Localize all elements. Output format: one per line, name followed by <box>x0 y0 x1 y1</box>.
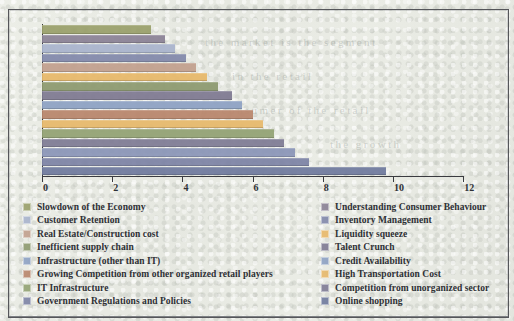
legend-swatch-icon <box>23 270 31 278</box>
bar-series <box>42 25 464 176</box>
bar <box>42 167 386 176</box>
bar <box>42 91 232 100</box>
legend-item: IT Infrastructure <box>23 281 323 294</box>
legend-item-label: IT Infrastructure <box>37 283 108 293</box>
legend-item-label: Inefficient supply chain <box>37 242 134 252</box>
legend-item-label: Customer Retention <box>37 215 120 225</box>
bar <box>42 54 186 63</box>
legend-item-label: Growing Competition from other organized… <box>37 269 273 279</box>
legend-column-left: Slowdown of the EconomyCustomer Retentio… <box>23 200 323 308</box>
legend-item-label: Inventory Management <box>335 215 432 225</box>
legend-swatch-icon <box>23 230 31 238</box>
legend-item-label: Credit Availability <box>335 256 411 266</box>
legend-swatch-icon <box>23 203 31 211</box>
legend-swatch-icon <box>23 284 31 292</box>
legend-swatch-icon <box>321 257 329 265</box>
legend-item-label: Competition from unorganized sector <box>335 283 489 293</box>
legend-swatch-icon <box>321 216 329 224</box>
x-axis-tick-label: 2 <box>113 182 118 193</box>
legend-item: Infrastructure (other than IT) <box>23 254 323 267</box>
legend-item: High Transportation Cost <box>321 268 514 281</box>
chart-legend: Slowdown of the EconomyCustomer Retentio… <box>9 200 507 318</box>
bar <box>42 139 284 148</box>
bar <box>42 148 295 157</box>
legend-swatch-icon <box>321 284 329 292</box>
legend-swatch-icon <box>321 203 329 211</box>
legend-item: Liquidity squeeze <box>321 227 514 240</box>
legend-item: Understanding Consumer Behaviour <box>321 200 514 213</box>
legend-swatch-icon <box>23 297 31 305</box>
legend-swatch-icon <box>23 216 31 224</box>
x-axis-tick-label: 0 <box>43 182 48 193</box>
legend-item: Slowdown of the Economy <box>23 200 323 213</box>
bar <box>42 158 309 167</box>
bar <box>42 44 175 53</box>
legend-item-label: Real Estate/Construction cost <box>37 229 159 239</box>
bar <box>42 63 196 72</box>
scanned-page: the market is the segmentin the retailth… <box>0 0 514 321</box>
bar <box>42 35 165 44</box>
legend-swatch-icon <box>321 270 329 278</box>
x-axis-tick-label: 8 <box>324 182 329 193</box>
bar <box>42 73 207 82</box>
legend-swatch-icon <box>321 243 329 251</box>
legend-item-label: Understanding Consumer Behaviour <box>335 202 486 212</box>
legend-item-label: Government Regulations and Policies <box>37 296 191 306</box>
legend-item: Real Estate/Construction cost <box>23 227 323 240</box>
legend-column-right: Understanding Consumer BehaviourInventor… <box>321 200 514 308</box>
bar <box>42 25 151 34</box>
bar <box>42 120 263 129</box>
legend-item: Inefficient supply chain <box>23 241 323 254</box>
footer-rule <box>9 316 508 317</box>
legend-item-label: Liquidity squeeze <box>335 229 407 239</box>
legend-item-label: Infrastructure (other than IT) <box>37 256 160 266</box>
bar <box>42 101 242 110</box>
bar <box>42 129 274 138</box>
legend-item-label: Talent Crunch <box>335 242 395 252</box>
x-axis-tick-label: 12 <box>464 182 474 193</box>
legend-item: Competition from unorganized sector <box>321 281 514 294</box>
bar <box>42 110 253 119</box>
legend-item-label: High Transportation Cost <box>335 269 441 279</box>
legend-item: Customer Retention <box>23 214 323 227</box>
legend-item: Government Regulations and Policies <box>23 295 323 308</box>
legend-swatch-icon <box>23 243 31 251</box>
legend-item-label: Online shopping <box>335 296 403 306</box>
legend-swatch-icon <box>23 257 31 265</box>
legend-swatch-icon <box>321 297 329 305</box>
chart-plot-area: 024681012 <box>9 10 504 196</box>
x-axis-tick-label: 4 <box>183 182 188 193</box>
legend-item: Credit Availability <box>321 254 514 267</box>
legend-item: Talent Crunch <box>321 241 514 254</box>
legend-item: Online shopping <box>321 295 514 308</box>
x-axis-tick-label: 6 <box>254 182 259 193</box>
x-axis-tick-label: 10 <box>394 182 404 193</box>
legend-item: Growing Competition from other organized… <box>23 268 323 281</box>
legend-swatch-icon <box>321 230 329 238</box>
legend-item-label: Slowdown of the Economy <box>37 202 146 212</box>
legend-item: Inventory Management <box>321 214 514 227</box>
bar <box>42 82 218 91</box>
